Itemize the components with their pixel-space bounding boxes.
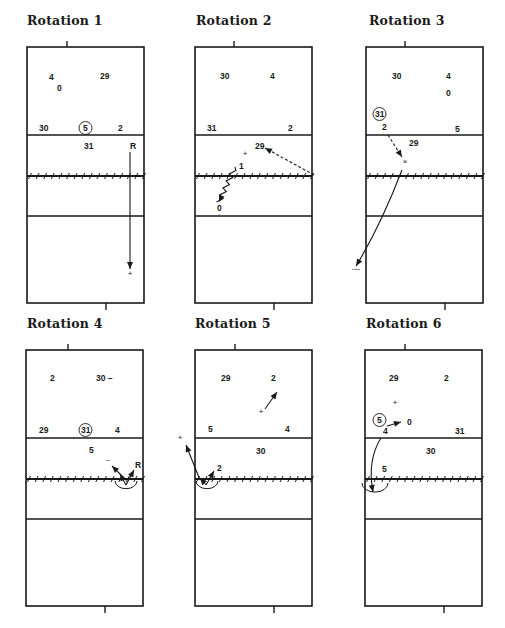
player-number: 0 [446, 88, 451, 98]
arrowhead-icon [271, 392, 277, 399]
player-number: 31 [81, 425, 91, 435]
player-label: R [130, 141, 136, 151]
player-label: 29 [221, 373, 231, 383]
player-number: 4 [270, 71, 275, 81]
player-label: 5 [89, 445, 94, 455]
player-number: 2 [288, 123, 293, 133]
player-label: 31 [207, 123, 217, 133]
player-label: 29 [389, 373, 399, 383]
player-label: 0 [407, 417, 412, 427]
position-marker: . [218, 208, 220, 217]
player-number: 2 [217, 463, 222, 473]
player-label: 5 [455, 124, 460, 134]
player-label: 4 [446, 71, 451, 81]
player-number: 31 [375, 109, 385, 119]
player-label: 2 [50, 373, 55, 383]
rotation-title: Rotation 3 [369, 13, 445, 28]
player-number: 29 [409, 138, 419, 148]
player-circled: 31 [373, 108, 386, 121]
player-number: 30 – [96, 373, 113, 383]
player-label: 30 [220, 71, 230, 81]
player-number: 30 [426, 446, 436, 456]
player-number: R [135, 460, 141, 470]
movement-arrow [388, 135, 402, 157]
player-number: 5 [455, 124, 460, 134]
player-label: 30 [39, 123, 49, 133]
court-diagram: 3040312529×— [346, 39, 503, 315]
player-number: 30 [39, 123, 49, 133]
player-number: 4 [446, 71, 451, 81]
movement-arrow [387, 421, 401, 427]
player-number: 29 [39, 425, 49, 435]
player-number: 4 [285, 424, 290, 434]
player-number: 30 [220, 71, 230, 81]
player-number: 4 [49, 72, 54, 82]
player-label: 29 [255, 141, 265, 151]
player-number: 0 [57, 83, 62, 93]
player-number: 29 [100, 71, 110, 81]
player-circled: 5 [79, 122, 92, 135]
player-label: 30 [256, 446, 266, 456]
movement-arrow [186, 445, 200, 480]
player-number: 29 [389, 373, 399, 383]
player-label: 4 [270, 71, 275, 81]
arrowhead-icon [396, 149, 402, 157]
court-diagram: 29250431305+ [345, 342, 502, 618]
arrowhead-icon [208, 471, 214, 479]
movement-arrow [356, 170, 402, 266]
player-label: 4 [115, 425, 120, 435]
court-diagram: 29254302++ [175, 342, 332, 618]
player-label: 2 [382, 122, 387, 132]
movement-arrow [369, 438, 381, 492]
movement-arrow [217, 167, 236, 202]
player-label: 4 [49, 72, 54, 82]
player-number: 2 [50, 373, 55, 383]
player-label: R [135, 460, 141, 470]
player-label: 0 [57, 83, 62, 93]
arrowhead-icon [127, 262, 133, 269]
player-number: 4 [383, 426, 388, 436]
arrowhead-icon [186, 445, 192, 453]
position-marker: × [403, 157, 408, 166]
court-diagram: 3043122910+. [175, 39, 332, 315]
player-label: 2 [288, 123, 293, 133]
player-number: 0 [407, 417, 412, 427]
player-label: 30 – [96, 373, 113, 383]
position-marker: + [128, 269, 133, 278]
player-circled: 31 [79, 424, 92, 437]
player-number: 2 [118, 123, 123, 133]
arrowhead-icon [219, 194, 225, 202]
player-number: 30 [392, 71, 402, 81]
arrowhead-icon [265, 148, 273, 154]
rotation-title: Rotation 6 [366, 316, 442, 331]
player-label: 5 [382, 464, 387, 474]
player-circled: 5 [373, 414, 386, 427]
player-number: 30 [256, 446, 266, 456]
player-number: 31 [84, 141, 94, 151]
player-label: 29 [39, 425, 49, 435]
position-marker: — [352, 264, 360, 273]
rotation-title: Rotation 1 [27, 13, 103, 28]
player-label: 2 [444, 373, 449, 383]
position-marker: + [393, 398, 398, 407]
player-label: 2 [217, 463, 222, 473]
player-number: 5 [83, 123, 88, 133]
player-number: 2 [382, 122, 387, 132]
player-label: 4 [383, 426, 388, 436]
rotation-title: Rotation 2 [196, 13, 272, 28]
player-number: 5 [208, 424, 213, 434]
player-number: 2 [444, 373, 449, 383]
player-number: 31 [207, 123, 217, 133]
player-number: 29 [221, 373, 231, 383]
player-label: 31 [455, 426, 465, 436]
player-label: 5 [208, 424, 213, 434]
player-label: 0 [446, 88, 451, 98]
court-diagram: 4029305231R+ [7, 39, 164, 315]
player-label: 29 [100, 71, 110, 81]
block-arc [362, 483, 388, 492]
arrowhead-icon [393, 421, 401, 427]
movement-arrow [126, 470, 134, 485]
player-number: 31 [455, 426, 465, 436]
player-label: 2 [118, 123, 123, 133]
player-number: R [130, 141, 136, 151]
